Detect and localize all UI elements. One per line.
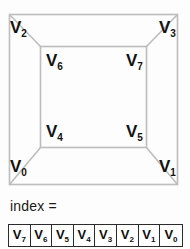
index-cell[interactable]: V3 [95,225,117,246]
index-caption: index = [10,198,57,214]
index-cell-text: V6 [34,228,47,243]
vertex-label-v3-base: V [159,18,170,37]
vertex-label-v0: V0 [10,158,27,177]
vertex-label-v3-subscript: 3 [170,28,176,39]
index-cell[interactable]: V6 [31,225,53,246]
index-cell-base: V [99,227,108,242]
index-cell-subscript: 5 [65,235,69,244]
vertex-label-v6-base: V [46,51,57,70]
vertex-label-v1-subscript: 1 [170,167,176,178]
index-cell-base: V [56,227,65,242]
index-cell-text: V2 [121,228,134,243]
vertex-label-v0-subscript: 0 [21,167,27,178]
vertex-label-v2: V2 [10,19,27,38]
index-cell-text: V4 [78,228,91,243]
vertex-label-v0-base: V [10,157,21,176]
index-cell-base: V [164,227,173,242]
vertex-label-v2-subscript: 2 [21,28,27,39]
index-cell-base: V [34,227,43,242]
index-cell-subscript: 2 [129,235,133,244]
index-array: V7 V6 V5 V4 V3 V2 V1 V0 [8,224,183,247]
index-cell[interactable]: V5 [52,225,74,246]
vertex-label-v7-subscript: 7 [137,61,143,72]
index-cell-text: V0 [164,228,177,243]
vertex-label-v6-subscript: 6 [57,61,63,72]
vertex-label-v5: V5 [126,123,143,142]
vertex-label-v1: V1 [159,158,176,177]
vertex-label-v2-base: V [10,18,21,37]
index-cell-subscript: 4 [86,235,90,244]
vertex-label-v7-base: V [126,51,137,70]
index-cell-subscript: 0 [173,235,177,244]
index-cell[interactable]: V7 [9,225,31,246]
index-cell-base: V [142,227,151,242]
index-cell-subscript: 1 [151,235,155,244]
index-cell-subscript: 7 [21,235,25,244]
vertex-label-v4-base: V [46,122,57,141]
index-cell-text: V1 [142,228,155,243]
index-cell-text: V5 [56,228,69,243]
vertex-label-v4-subscript: 4 [57,132,63,143]
index-cell[interactable]: V2 [117,225,139,246]
vertex-label-v6: V6 [46,52,63,71]
index-cell-subscript: 3 [108,235,112,244]
index-cell[interactable]: V4 [74,225,96,246]
index-cell-subscript: 6 [43,235,47,244]
vertex-label-v5-base: V [126,122,137,141]
cube-diagram: V2 V3 V6 V7 V4 V5 V0 V1 [0,0,190,192]
vertex-label-v3: V3 [159,19,176,38]
index-cell-text: V3 [99,228,112,243]
vertex-label-v5-subscript: 5 [137,132,143,143]
index-cell[interactable]: V0 [160,225,182,246]
vertex-label-v7: V7 [126,52,143,71]
vertex-label-v1-base: V [159,157,170,176]
index-cell-text: V7 [13,228,26,243]
vertex-label-v4: V4 [46,123,63,142]
index-cell[interactable]: V1 [139,225,161,246]
index-cell-base: V [78,227,87,242]
